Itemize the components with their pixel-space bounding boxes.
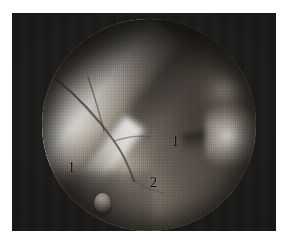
endoscope-circular-field — [42, 19, 256, 231]
annotation-label-2: 2 — [150, 176, 157, 190]
scope-edge-vignette — [42, 19, 256, 231]
figure-container: 1 1 2 — [0, 0, 288, 244]
photo-plate — [12, 13, 276, 231]
annotation-label-1-left: 1 — [68, 161, 75, 175]
annotation-label-1-right: 1 — [172, 135, 179, 149]
